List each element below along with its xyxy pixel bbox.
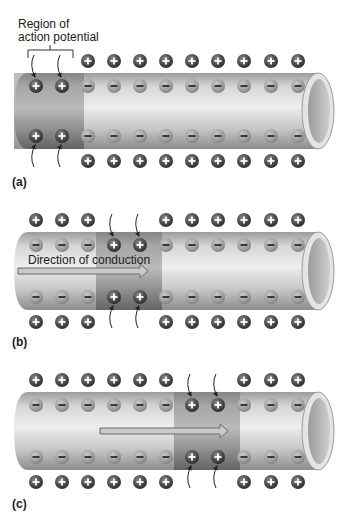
negative-ion-icon	[107, 79, 121, 93]
positive-ion-icon	[133, 373, 147, 387]
negative-ion-icon	[264, 398, 278, 412]
negative-ion-icon	[264, 238, 278, 252]
positive-ion-icon	[81, 315, 95, 329]
negative-ion-icon	[107, 398, 121, 412]
positive-ion-icon	[107, 290, 121, 304]
positive-ion-icon	[81, 154, 95, 168]
positive-ion-icon	[29, 129, 43, 143]
positive-ion-icon	[29, 475, 43, 489]
negative-ion-icon	[55, 290, 69, 304]
positive-ion-icon	[264, 154, 278, 168]
negative-ion-icon	[264, 79, 278, 93]
negative-ion-icon	[264, 129, 278, 143]
positive-ion-icon	[264, 475, 278, 489]
negative-ion-icon	[29, 398, 43, 412]
positive-ion-icon	[264, 315, 278, 329]
positive-ion-icon	[237, 475, 251, 489]
positive-ion-icon	[29, 79, 43, 93]
negative-ion-icon	[107, 450, 121, 464]
negative-ion-icon	[159, 290, 173, 304]
negative-ion-icon	[81, 79, 95, 93]
positive-ion-icon	[29, 315, 43, 329]
negative-ion-icon	[237, 129, 251, 143]
negative-ion-icon	[291, 398, 305, 412]
negative-ion-icon	[291, 450, 305, 464]
axon-lumen	[308, 238, 330, 304]
positive-ion-icon	[237, 373, 251, 387]
positive-ion-icon	[133, 154, 147, 168]
positive-ion-icon	[185, 315, 199, 329]
positive-ion-icon	[107, 54, 121, 68]
positive-ion-icon	[211, 315, 225, 329]
negative-ion-icon	[185, 129, 199, 143]
negative-ion-icon	[29, 290, 43, 304]
negative-ion-icon	[185, 79, 199, 93]
positive-ion-icon	[185, 213, 199, 227]
positive-ion-icon	[211, 54, 225, 68]
negative-ion-icon	[237, 398, 251, 412]
negative-ion-icon	[211, 238, 225, 252]
positive-ion-icon	[211, 398, 225, 412]
positive-ion-icon	[81, 54, 95, 68]
positive-ion-icon	[55, 373, 69, 387]
negative-ion-icon	[211, 290, 225, 304]
axon-lumen	[308, 398, 330, 464]
positive-ion-icon	[55, 475, 69, 489]
positive-ion-icon	[107, 475, 121, 489]
negative-ion-icon	[237, 238, 251, 252]
negative-ion-icon	[133, 450, 147, 464]
negative-ion-icon	[159, 79, 173, 93]
negative-ion-icon	[81, 398, 95, 412]
positive-ion-icon	[81, 475, 95, 489]
negative-ion-icon	[264, 290, 278, 304]
negative-ion-icon	[29, 450, 43, 464]
negative-ion-icon	[291, 79, 305, 93]
negative-ion-icon	[55, 450, 69, 464]
negative-ion-icon	[81, 290, 95, 304]
negative-ion-icon	[133, 398, 147, 412]
positive-ion-icon	[185, 398, 199, 412]
negative-ion-icon	[81, 129, 95, 143]
depolarized-region	[14, 73, 84, 149]
negative-ion-icon	[81, 450, 95, 464]
positive-ion-icon	[55, 129, 69, 143]
negative-ion-icon	[185, 290, 199, 304]
panel-b	[14, 213, 334, 329]
negative-ion-icon	[185, 238, 199, 252]
negative-ion-icon	[55, 238, 69, 252]
positive-ion-icon	[291, 54, 305, 68]
positive-ion-icon	[107, 238, 121, 252]
positive-ion-icon	[107, 154, 121, 168]
positive-ion-icon	[185, 450, 199, 464]
negative-ion-icon	[211, 129, 225, 143]
positive-ion-icon	[291, 213, 305, 227]
positive-ion-icon	[133, 475, 147, 489]
positive-ion-icon	[55, 79, 69, 93]
negative-ion-icon	[291, 290, 305, 304]
positive-ion-icon	[237, 154, 251, 168]
negative-ion-icon	[159, 450, 173, 464]
positive-ion-icon	[159, 475, 173, 489]
positive-ion-icon	[133, 54, 147, 68]
negative-ion-icon	[159, 129, 173, 143]
positive-ion-icon	[133, 290, 147, 304]
positive-ion-icon	[29, 213, 43, 227]
annotation-line2: action potential	[18, 31, 99, 44]
positive-ion-icon	[107, 373, 121, 387]
positive-ion-icon	[55, 213, 69, 227]
positive-ion-icon	[211, 450, 225, 464]
positive-ion-icon	[237, 213, 251, 227]
negative-ion-icon	[237, 79, 251, 93]
negative-ion-icon	[107, 129, 121, 143]
negative-ion-icon	[291, 238, 305, 252]
negative-ion-icon	[237, 290, 251, 304]
negative-ion-icon	[159, 238, 173, 252]
positive-ion-icon	[237, 315, 251, 329]
panel-label-a: (a)	[12, 175, 27, 189]
panel-label-b: (b)	[12, 335, 27, 349]
positive-ion-icon	[29, 373, 43, 387]
positive-ion-icon	[81, 373, 95, 387]
negative-ion-icon	[81, 238, 95, 252]
positive-ion-icon	[237, 54, 251, 68]
positive-ion-icon	[291, 154, 305, 168]
